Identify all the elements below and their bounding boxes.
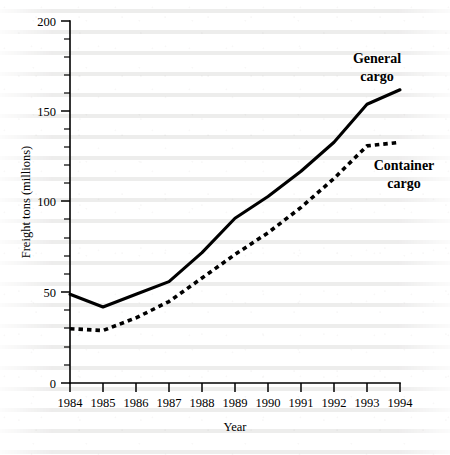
x-tick-label-1986: 1986 [124, 396, 149, 410]
x-tick-label-1989: 1989 [223, 396, 248, 410]
series-label-general-cargo-line2: cargo [360, 69, 393, 84]
axes [70, 21, 400, 383]
series-label-container-cargo-line2: cargo [387, 176, 420, 191]
x-tick-label-1985: 1985 [91, 396, 116, 410]
series-label-general-cargo: General cargo [353, 51, 401, 84]
x-tick-label-1990: 1990 [256, 396, 281, 410]
series-label-container-cargo-line1: Container [374, 158, 435, 173]
y-tick-label-150: 150 [37, 105, 56, 119]
x-tick-label-1984: 1984 [58, 396, 84, 410]
series-label-general-cargo-line1: General [353, 51, 401, 66]
x-tick-label-1993: 1993 [355, 396, 380, 410]
y-axis-ticks [61, 21, 70, 383]
freight-tons-line-chart: 200 150 100 50 0 Freight tons (millions)… [0, 0, 450, 455]
x-tick-label-1988: 1988 [190, 396, 215, 410]
x-tick-label-1994: 1994 [388, 396, 414, 410]
series-line-general-cargo [70, 90, 400, 307]
y-tick-label-100: 100 [37, 195, 56, 209]
x-tick-label-1992: 1992 [322, 396, 347, 410]
x-axis-ticks [70, 383, 400, 392]
y-tick-label-50: 50 [44, 286, 57, 300]
x-tick-label-1991: 1991 [289, 396, 314, 410]
y-axis-title: Freight tons (millions) [19, 146, 33, 259]
y-tick-label-0: 0 [50, 377, 56, 391]
y-tick-label-200: 200 [37, 15, 56, 29]
chart-canvas: 200 150 100 50 0 Freight tons (millions)… [0, 0, 450, 455]
series-label-container-cargo: Container cargo [374, 158, 435, 191]
x-axis-title: Year [223, 420, 247, 434]
x-tick-label-1987: 1987 [157, 396, 182, 410]
